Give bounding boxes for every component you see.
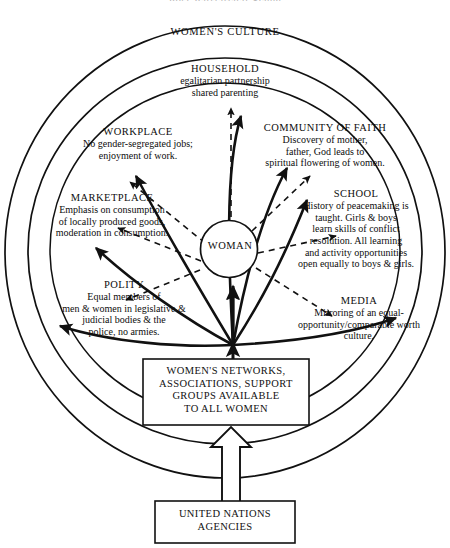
united-nations-box-text: UNITED NATIONS AGENCIES (160, 508, 290, 533)
school-line-5: and activity opportunities (272, 247, 440, 259)
label-marketplace: MARKETPLACE Emphasis on consumption of l… (24, 192, 200, 239)
woman-heading: WOMAN (196, 240, 264, 252)
label-media: MEDIA Mirroring of an equal- opportunity… (272, 295, 446, 342)
networks-line-3: GROUPS AVAILABLE (148, 390, 304, 403)
marketplace-line-2: of locally produced goods, (24, 216, 200, 228)
workplace-line-1: No gender-segregated jobs; (58, 138, 218, 150)
networks-line-4: TO ALL WOMEN (148, 403, 304, 416)
marketplace-line-1: Emphasis on consumption (24, 204, 200, 216)
workplace-heading: WORKPLACE (58, 126, 218, 138)
un-line-2: AGENCIES (160, 521, 290, 534)
household-heading: HOUSEHOLD (125, 63, 325, 75)
networks-line-2: ASSOCIATIONS, SUPPORT (148, 378, 304, 391)
label-school: SCHOOL History of peacemaking is taught.… (272, 188, 440, 270)
womens-culture-heading: WOMEN'S CULTURE (0, 26, 450, 38)
polity-line-3: judicial bodies & the (40, 314, 208, 326)
household-line-1: egalitarian partnership (125, 75, 325, 87)
school-heading: SCHOOL (272, 188, 440, 200)
media-heading: MEDIA (272, 295, 446, 307)
faith-line-2: father, God leads to (232, 146, 418, 158)
faith-line-1: Discovery of mother, (232, 134, 418, 146)
school-line-6: open equally to boys & girls. (272, 258, 440, 270)
diagram-canvas: Post-Patriarchal Scene (0, 0, 450, 548)
marketplace-heading: MARKETPLACE (24, 192, 200, 204)
school-line-2: taught. Girls & boys (272, 212, 440, 224)
media-line-2: opportunity/comparable worth (272, 319, 446, 331)
label-community-of-faith: COMMUNITY OF FAITH Discovery of mother, … (232, 122, 418, 169)
polity-line-1: Equal members of (40, 291, 208, 303)
school-line-3: learn skills of conflict (272, 223, 440, 235)
label-woman: WOMAN (196, 240, 264, 252)
networks-box-text: WOMEN'S NETWORKS, ASSOCIATIONS, SUPPORT … (148, 365, 304, 415)
household-line-2: shared parenting (125, 87, 325, 99)
school-line-4: resolution. All learning (272, 235, 440, 247)
un-line-1: UNITED NATIONS (160, 508, 290, 521)
faith-heading: COMMUNITY OF FAITH (232, 122, 418, 134)
label-household: HOUSEHOLD egalitarian partnership shared… (125, 63, 325, 98)
marketplace-line-3: moderation in consumption. (24, 227, 200, 239)
media-line-1: Mirroring of an equal- (272, 307, 446, 319)
hollow-arrow-un-to-networks (211, 427, 251, 502)
media-line-3: culture. (272, 330, 446, 342)
label-workplace: WORKPLACE No gender-segregated jobs; enj… (58, 126, 218, 161)
faith-line-3: spiritual flowering of women. (232, 157, 418, 169)
polity-line-4: police, no armies. (40, 326, 208, 338)
networks-line-1: WOMEN'S NETWORKS, (148, 365, 304, 378)
polity-heading: POLITY (40, 279, 208, 291)
school-line-1: History of peacemaking is (272, 200, 440, 212)
label-polity: POLITY Equal members of men & women in l… (40, 279, 208, 338)
workplace-line-2: enjoyment of work. (58, 150, 218, 162)
label-womens-culture: WOMEN'S CULTURE (0, 26, 450, 38)
polity-line-2: men & women in legislative & (40, 303, 208, 315)
